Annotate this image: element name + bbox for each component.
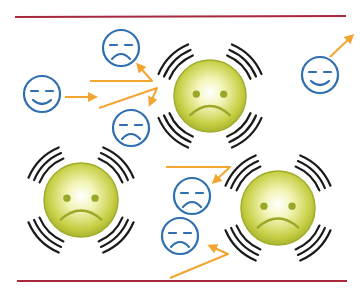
top-rule: [15, 16, 346, 17]
calm-face-right: [302, 57, 338, 93]
eye-icon: [193, 91, 200, 98]
stressed-face-left: [29, 148, 134, 253]
upset-face-lower-2: [162, 218, 198, 254]
stressed-face-center: [159, 45, 262, 148]
face-circle: [174, 60, 246, 132]
eye-icon: [91, 194, 98, 201]
upset-face-middle: [113, 110, 149, 146]
eye-icon: [220, 91, 227, 98]
arrow-to-upset-middle-icon: [99, 88, 157, 108]
eye-icon: [288, 202, 295, 209]
upset-face-lower-1: [174, 178, 210, 214]
arrow-calm-right-up-icon: [330, 36, 352, 57]
stressed-face-right: [226, 156, 331, 261]
stress-contagion-diagram: [0, 0, 360, 297]
eye-icon: [260, 202, 267, 209]
arrow-to-upset-top-icon: [90, 65, 152, 81]
face-circle: [44, 163, 118, 237]
face-circle: [241, 171, 315, 245]
upset-face-top: [103, 30, 139, 66]
eye-icon: [63, 194, 70, 201]
calm-face-left: [24, 76, 60, 112]
